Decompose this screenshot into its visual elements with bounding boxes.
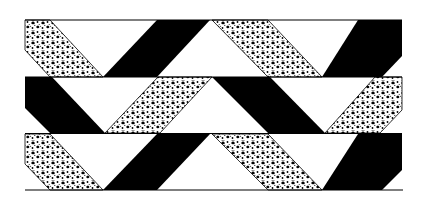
- black-strip: [322, 20, 402, 77]
- black-strip: [212, 77, 325, 133]
- black-strip: [322, 134, 402, 190]
- band-top: [25, 20, 402, 77]
- stipple-strip: [105, 77, 212, 133]
- band-bottom: [25, 134, 403, 191]
- stipple-strip: [212, 134, 322, 190]
- band-middle: [25, 77, 402, 133]
- stipple-strip: [25, 134, 103, 190]
- black-strip: [103, 134, 210, 190]
- black-strip: [25, 77, 105, 133]
- black-strip: [103, 20, 210, 77]
- stipple-strip: [325, 77, 402, 133]
- stipple-strip: [25, 20, 103, 77]
- zigzag-pattern-figure: [0, 0, 426, 199]
- stipple-strip: [212, 20, 322, 77]
